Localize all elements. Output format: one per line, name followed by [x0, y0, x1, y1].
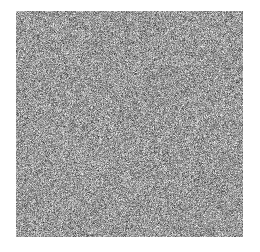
figure-root: [0, 0, 260, 252]
random-noise-patch: [16, 11, 243, 237]
